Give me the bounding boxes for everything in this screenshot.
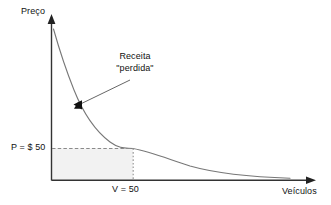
lost-revenue-annotation: Receita "perdida": [110, 51, 160, 74]
annotation-line-1: Receita: [110, 51, 160, 63]
volume-tick-label: V = 50: [112, 184, 139, 195]
demand-curve-chart: Preço Veículos P = $ 50 V = 50 Receita "…: [0, 0, 331, 205]
shaded-revenue-region: [52, 149, 133, 181]
annotation-leader-line: [81, 80, 131, 104]
y-axis-arrow-icon: [48, 14, 56, 24]
chart-canvas: [0, 0, 331, 205]
x-axis-arrow-icon: [306, 176, 316, 184]
price-tick-label: P = $ 50: [11, 142, 45, 153]
y-axis-label: Preço: [21, 6, 45, 17]
x-axis-label: Veículos: [282, 186, 317, 197]
annotation-line-2: "perdida": [110, 63, 160, 75]
